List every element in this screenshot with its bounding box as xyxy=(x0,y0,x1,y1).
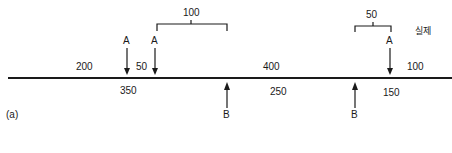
bottom-segment-value: 150 xyxy=(383,88,400,98)
bottom-segment-value: 250 xyxy=(270,87,287,97)
panel-label: (a) xyxy=(6,110,18,120)
marker-b-label: B xyxy=(223,110,230,120)
bracket-value: 100 xyxy=(183,8,200,18)
marker-a-label: A xyxy=(123,36,130,46)
top-segment-value: 400 xyxy=(263,62,280,72)
top-segment-value: 200 xyxy=(76,62,93,72)
arrow-up-icon xyxy=(224,82,230,108)
marker-a-label: A xyxy=(386,36,393,46)
arrow-up-icon xyxy=(352,82,358,108)
bracket-value: 50 xyxy=(366,10,377,20)
bottom-segment-value: 350 xyxy=(120,86,137,96)
arrow-down-icon xyxy=(152,48,158,75)
legend-label: 실제 xyxy=(415,26,431,36)
top-segment-value: 50 xyxy=(136,62,147,72)
marker-b-label: B xyxy=(351,110,358,120)
arrow-down-icon xyxy=(387,48,393,75)
top-segment-value: 100 xyxy=(407,62,424,72)
arrow-down-icon xyxy=(124,48,130,75)
bracket-icon xyxy=(157,20,227,31)
diagram-graphics xyxy=(0,0,452,153)
marker-a-label: A xyxy=(151,36,158,46)
bracket-icon xyxy=(355,22,391,32)
